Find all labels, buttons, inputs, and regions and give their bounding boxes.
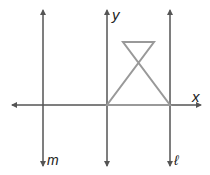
line-m-label: m — [47, 152, 59, 168]
hourglass-figure — [107, 42, 170, 105]
x-axis-label: x — [192, 88, 200, 105]
line-l-label: ℓ — [174, 152, 179, 168]
y-axis-label: y — [112, 6, 120, 23]
diagram-canvas — [0, 0, 210, 175]
